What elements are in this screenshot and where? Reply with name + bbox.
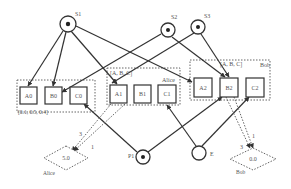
outcome-bob-label: Bob	[236, 170, 245, 176]
source-node-s1	[60, 16, 76, 32]
node-label-p1: P1	[128, 153, 134, 159]
node-label-b2: B2	[220, 85, 238, 91]
source-label-s1: S1	[75, 11, 81, 17]
node-label-b0: B0	[45, 93, 62, 99]
edge-label-bob-3: 3	[240, 144, 243, 150]
node-label-c2: C2	[246, 85, 264, 91]
outcome-alice-value: 5.0	[56, 155, 76, 161]
edge-label-alice-1: 1	[91, 144, 94, 150]
source-node-s2	[161, 23, 175, 37]
group-label-alice: [A, B, C]	[110, 70, 132, 76]
outcome-alice-label: Alice	[43, 171, 55, 177]
node-label-a0: A0	[20, 93, 37, 99]
node-label-c0: C0	[70, 93, 87, 99]
group-owner-bob: Bob	[260, 62, 270, 68]
group-label-bob: [A, B, C]	[220, 61, 242, 67]
group-label-0: [0.1, 0.5, 0.4]	[18, 110, 48, 116]
node-label-a2: A2	[194, 85, 212, 91]
group-owner-alice: Alice	[162, 77, 175, 83]
edge-label-alice-3: 3	[79, 131, 82, 137]
source-label-s3: S3	[204, 13, 210, 19]
source-node-s3	[191, 20, 205, 34]
edge-label-bob-1: 1	[252, 133, 255, 139]
source-label-s2: S2	[171, 14, 177, 20]
outcome-bob-value: 0.0	[243, 156, 263, 162]
node-label-b1: B1	[134, 91, 151, 97]
node-label-c1: C1	[158, 91, 176, 97]
node-label-a1: A1	[110, 91, 127, 97]
node-p1	[136, 150, 150, 164]
node-label-e: E	[210, 151, 214, 157]
node-e	[192, 146, 206, 160]
